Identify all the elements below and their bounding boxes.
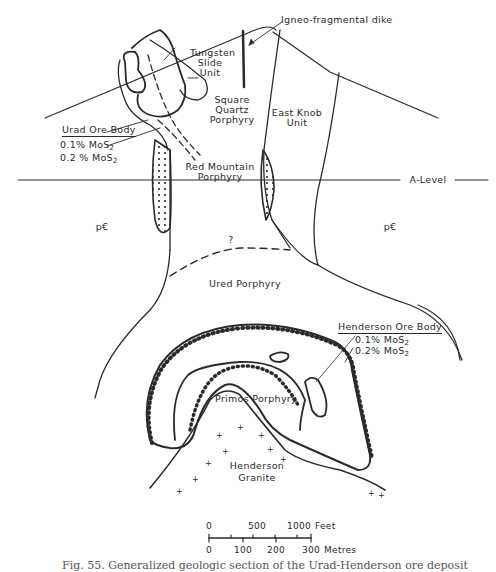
precambrian-left-label: p€ — [92, 221, 112, 232]
dike-leader-arrow — [249, 22, 282, 45]
svg-text:+: + — [192, 475, 199, 484]
subscript: 2 — [113, 157, 118, 165]
svg-text:+: + — [237, 423, 244, 432]
square-quartz-label-line3: Porphyry — [207, 114, 257, 125]
a-level-label: A-Level — [402, 174, 454, 185]
igneo-fragmental-dike-label: Igneo-fragmental dike — [281, 14, 393, 25]
scale-metres-unit: Metres — [324, 545, 356, 556]
ured-porphyry-label: Ured Porphyry — [195, 278, 295, 289]
east-knob-east-boundary — [314, 73, 339, 265]
henderson-ore-body-label: Henderson Ore Body — [338, 321, 442, 332]
precambrian-right-label: p€ — [380, 221, 400, 232]
east-knob-label-line2: Unit — [268, 117, 326, 128]
scale-feet-tick-1000: 1000 — [284, 521, 314, 532]
scale-metres-tick-300: 300 — [299, 545, 323, 556]
scale-metres-tick-200: 200 — [264, 545, 288, 556]
svg-text:+: + — [222, 447, 229, 456]
urad-grade-01-text: 0.1% MoS — [60, 139, 110, 150]
henderson-ore-body-title: Henderson Ore Body — [338, 321, 442, 334]
svg-text:+: + — [258, 431, 265, 440]
east-ore-shell — [261, 150, 274, 220]
henderson-grade-02-label: 0.2% MoS2 — [355, 345, 409, 360]
urad-upper-body — [124, 52, 145, 93]
svg-text:+: + — [216, 431, 223, 440]
henderson-small-pod — [270, 352, 288, 362]
question-mark-label: ? — [226, 234, 236, 245]
scale-feet-tick-0: 0 — [204, 521, 214, 532]
henderson-grade-01-text: 0.1% MoS — [355, 334, 405, 345]
svg-text:+: + — [378, 491, 385, 500]
subscript: 2 — [110, 144, 115, 152]
scale-metres-tick-0: 0 — [204, 545, 214, 556]
henderson-grade-02-text: 0.2% MoS — [355, 345, 405, 356]
urad-grade-02-text: 0.2 % MoS — [60, 152, 113, 163]
urad-ore-body-title: Urad Ore Body — [62, 124, 136, 137]
tungsten-slide-label-line3: Unit — [190, 67, 230, 78]
svg-text:+: + — [368, 489, 375, 498]
subscript: 2 — [405, 350, 410, 358]
urad-ore-body-label: Urad Ore Body — [62, 124, 136, 135]
urad-ore-pipe — [153, 140, 172, 233]
henderson-granite-label-line2: Granite — [222, 472, 292, 483]
dashed-contact — [170, 248, 290, 276]
scale-feet-tick-500: 500 — [245, 521, 269, 532]
primos-porphyry-label: Primos Porphyry — [208, 393, 304, 404]
ground-surface-right — [273, 32, 438, 118]
scale-metres-tick-100: 100 — [231, 545, 255, 556]
henderson-granite-label-line1: Henderson — [222, 460, 292, 471]
svg-text:+: + — [205, 459, 212, 468]
figure-caption: Fig. 55. Generalized geologic section of… — [62, 559, 468, 572]
henderson-elongated-pod — [305, 378, 326, 417]
red-mountain-label-line2: Porphyry — [180, 171, 260, 182]
urad-grade-02-label: 0.2 % MoS2 — [60, 152, 118, 167]
svg-text:+: + — [176, 487, 183, 496]
svg-text:+: + — [267, 445, 274, 454]
scale-feet-unit: Feet — [315, 521, 336, 532]
igneo-fragmental-dike — [243, 31, 244, 87]
